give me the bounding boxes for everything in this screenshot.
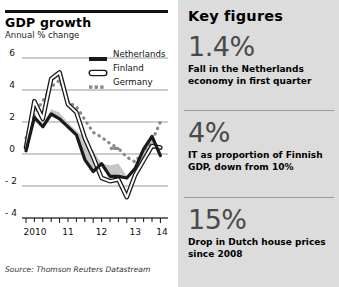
x-tick-13: 13 [129, 227, 140, 237]
key-figure-description-1: Fall in the Netherlands economy in first… [188, 64, 336, 87]
key-figure-item-2: 4% IT as proportion of Finnish GDP, down… [188, 118, 336, 173]
key-figures-divider-1 [184, 110, 334, 111]
legend-swatch-germany [88, 77, 108, 87]
key-figure-item-1: 1.4% Fall in the Netherlands economy in … [188, 32, 336, 87]
infographic-root: GDP growth Annual % change 6 4 2 [0, 0, 339, 287]
x-tick-11: 11 [62, 227, 73, 237]
chart-x-axis-labels: 2010 11 12 13 14 [24, 227, 168, 237]
gdp-growth-chart-panel: GDP growth Annual % change 6 4 2 [0, 0, 176, 287]
key-figure-description-2: IT as proportion of Finnish GDP, down fr… [188, 150, 336, 173]
legend-label-germany: Germany [113, 77, 153, 87]
y-tick-neg2: - 2 [5, 176, 17, 186]
x-tick-14: 14 [156, 227, 168, 237]
y-tick-6: 6 [9, 48, 15, 58]
chart-top-rule [5, 10, 168, 13]
key-figures-panel: Key figures 1.4% Fall in the Netherlands… [178, 0, 339, 287]
x-tick-12: 12 [96, 227, 107, 237]
legend-item-netherlands: Netherlands [88, 48, 176, 60]
key-figure-number-3: 15% [188, 205, 336, 235]
chart-legend: Netherlands Finland Germ [88, 48, 176, 90]
legend-label-netherlands: Netherlands [113, 49, 165, 59]
x-tick-2010: 2010 [24, 227, 47, 237]
legend-swatch-finland [88, 63, 108, 73]
legend-label-finland: Finland [113, 63, 144, 73]
legend-item-finland: Finland [88, 62, 176, 74]
legend-item-germany: Germany [88, 76, 176, 88]
y-tick-2: 2 [9, 112, 15, 122]
chart-x-minor-ticks [26, 218, 160, 223]
chart-subtitle: Annual % change [5, 30, 79, 40]
key-figures-title: Key figures [188, 8, 283, 24]
chart-title: GDP growth [5, 15, 91, 30]
legend-swatch-netherlands [88, 49, 108, 59]
y-tick-0: 0 [9, 144, 15, 154]
key-figure-number-2: 4% [188, 118, 336, 148]
key-figures-divider-2 [184, 197, 334, 198]
key-figure-description-3: Drop in Dutch house prices since 2008 [188, 237, 336, 260]
key-figure-number-1: 1.4% [188, 32, 336, 62]
y-tick-4: 4 [9, 80, 15, 90]
y-tick-neg4: - 4 [5, 208, 17, 218]
chart-y-axis-labels: 6 4 2 0 - 2 - 4 [5, 48, 17, 218]
chart-source-note: Source: Thomson Reuters Datastream [5, 265, 150, 274]
key-figure-item-3: 15% Drop in Dutch house prices since 200… [188, 205, 336, 260]
